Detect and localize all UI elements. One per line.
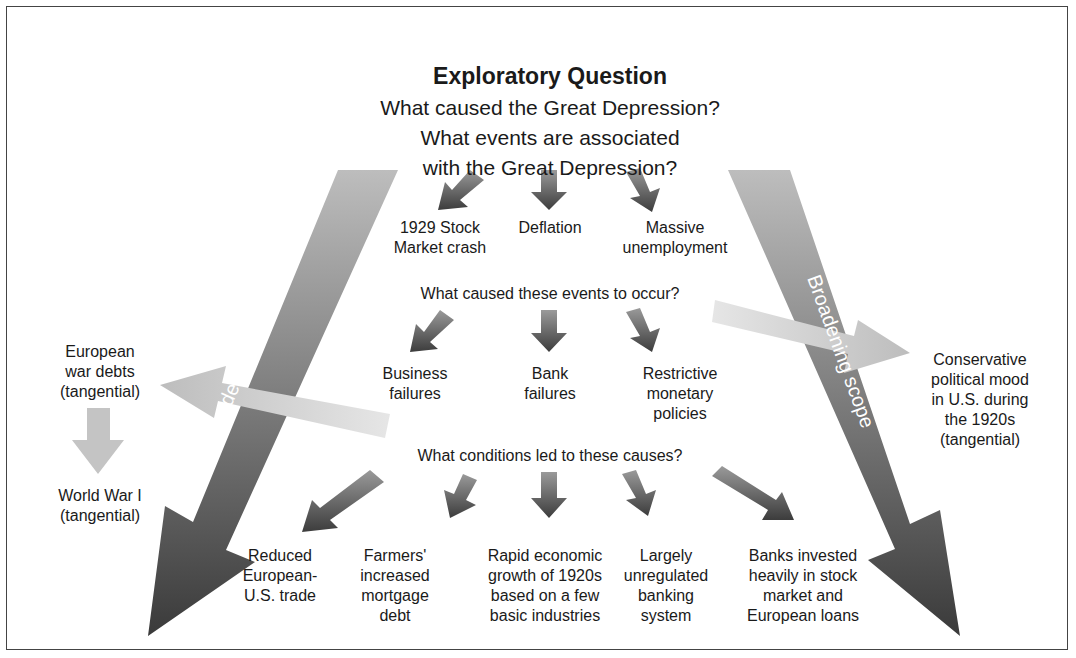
exploratory-question-2: What events are associated (300, 124, 800, 152)
exploratory-question-3: with the Great Depression? (300, 154, 800, 182)
level3-arrows (302, 466, 794, 532)
condition-farmers-mortgage-debt: Farmers' increased mortgage debt (340, 546, 450, 626)
diagram-title: Exploratory Question (350, 62, 750, 90)
event-massive-unemployment: Massive unemployment (610, 218, 740, 258)
condition-rapid-growth: Rapid economic growth of 1920s based on … (470, 546, 620, 626)
tangential-conservative-mood: Conservative political mood in U.S. duri… (900, 350, 1060, 450)
tangential-arrow-down (72, 408, 124, 474)
cause-bank-failures: Bank failures (500, 364, 600, 404)
exploratory-question-1: What caused the Great Depression? (300, 94, 800, 122)
condition-unregulated-banking: Largely unregulated banking system (616, 546, 716, 626)
event-deflation: Deflation (500, 218, 600, 238)
tangential-european-war-debts: European war debts (tangential) (20, 342, 180, 402)
condition-reduced-trade: Reduced European- U.S. trade (225, 546, 335, 606)
condition-banks-invested: Banks invested heavily in stock market a… (728, 546, 878, 626)
level2-question: What caused these events to occur? (380, 284, 720, 304)
cause-restrictive-monetary-policies: Restrictive monetary policies (620, 364, 740, 424)
cause-business-failures: Business failures (365, 364, 465, 404)
level3-question: What conditions led to these causes? (380, 446, 720, 466)
tangential-world-war-i: World War I (tangential) (20, 486, 180, 526)
level2-arrows (410, 308, 660, 352)
event-stock-market-crash: 1929 Stock Market crash (380, 218, 500, 258)
